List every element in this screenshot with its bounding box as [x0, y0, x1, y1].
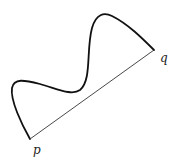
label-q: q	[160, 51, 168, 65]
label-p: p	[33, 143, 41, 157]
diagram-canvas: p q	[0, 0, 177, 162]
straight-segment-pq	[30, 50, 154, 139]
wavy-curve	[12, 14, 154, 139]
